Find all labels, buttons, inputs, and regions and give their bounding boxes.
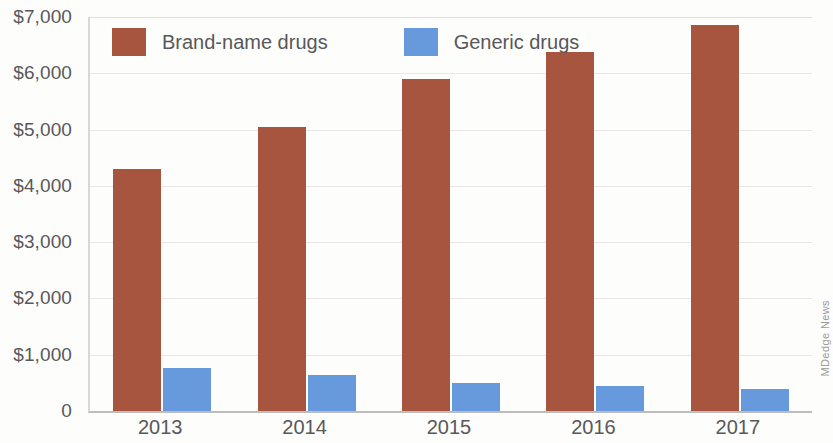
bar-generic-2017 xyxy=(741,389,789,411)
bar-brand-2015 xyxy=(402,79,450,411)
x-tick-label-2017: 2017 xyxy=(716,416,761,439)
bar-group-2013 xyxy=(113,17,211,411)
y-tick-label: $2,000 xyxy=(13,287,72,309)
y-tick-label: $7,000 xyxy=(13,6,72,28)
y-tick-label: $5,000 xyxy=(13,119,72,141)
bar-brand-2013 xyxy=(113,169,161,411)
x-tick-label-2014: 2014 xyxy=(282,416,327,439)
legend-label-generic: Generic drugs xyxy=(454,31,580,54)
y-tick-label: $1,000 xyxy=(13,344,72,366)
y-axis: 0$1,000$2,000$3,000$4,000$5,000$6,000$7,… xyxy=(0,0,78,443)
y-tick-label: $4,000 xyxy=(13,175,72,197)
y-tick-label: $6,000 xyxy=(13,62,72,84)
chart-legend: Brand-name drugs Generic drugs xyxy=(112,28,579,56)
y-tick-label: $3,000 xyxy=(13,231,72,253)
bar-group-2015 xyxy=(402,17,500,411)
bar-generic-2013 xyxy=(163,368,211,411)
y-tick-label: 0 xyxy=(61,400,72,422)
bar-brand-2017 xyxy=(691,25,739,411)
bar-brand-2014 xyxy=(258,127,306,411)
bar-group-2016 xyxy=(546,17,644,411)
x-tick-label-2015: 2015 xyxy=(427,416,472,439)
x-tick-label-2016: 2016 xyxy=(571,416,616,439)
bars-layer xyxy=(90,17,812,411)
bar-group-2017 xyxy=(691,17,789,411)
x-axis: 20132014201520162017 xyxy=(88,416,810,443)
legend-label-brand: Brand-name drugs xyxy=(162,31,328,54)
plot-area xyxy=(88,17,812,413)
bar-chart: 0$1,000$2,000$3,000$4,000$5,000$6,000$7,… xyxy=(0,0,833,443)
legend-swatch-icon-brand xyxy=(112,28,146,56)
legend-swatch-icon-generic xyxy=(404,28,438,56)
bar-brand-2016 xyxy=(546,52,594,411)
legend-item-generic-drugs: Generic drugs xyxy=(404,28,580,56)
bar-generic-2014 xyxy=(308,375,356,411)
source-credit: MDedge News xyxy=(819,300,831,377)
bar-generic-2015 xyxy=(452,383,500,411)
bar-generic-2016 xyxy=(596,386,644,411)
x-tick-label-2013: 2013 xyxy=(138,416,183,439)
legend-item-brand-name-drugs: Brand-name drugs xyxy=(112,28,328,56)
bar-group-2014 xyxy=(258,17,356,411)
